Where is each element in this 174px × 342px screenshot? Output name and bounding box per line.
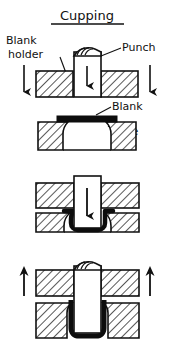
label-blank-holder-line2: holder (8, 48, 44, 61)
die-left-block-p4 (36, 303, 72, 338)
blank-holder-left-block-p4 (36, 270, 74, 296)
label-blank-holder-line1: Blank (6, 34, 37, 47)
die-right-block (106, 122, 136, 150)
cupping-diagram-svg: Cupping Blank holder Punch Blank Die (0, 0, 174, 342)
die-right-block-p4 (103, 303, 139, 338)
punch-body-p4 (74, 266, 101, 333)
blank-flat-sheet (57, 116, 117, 122)
label-punch-text: Punch (122, 41, 155, 54)
die-left-block (38, 122, 68, 150)
label-blank-text: Blank (112, 100, 143, 113)
blank-holder-left-block-p3 (36, 183, 74, 208)
blank-holder-right-block-p4 (101, 270, 139, 296)
blank-holder-left-block (36, 71, 73, 97)
page-title: Cupping (60, 8, 114, 23)
panel-3-drawing (36, 176, 139, 232)
cupping-diagram-page: Cupping Blank holder Punch Blank Die (0, 0, 174, 342)
blank-holder-right-block (101, 71, 138, 97)
blank-holder-right-block-p3 (101, 183, 139, 208)
diagram-title-group: Cupping (51, 8, 124, 24)
